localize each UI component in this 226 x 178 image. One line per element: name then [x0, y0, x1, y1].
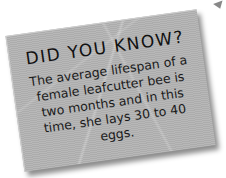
corner-arrow-icon [213, 1, 225, 11]
did-you-know-card: DID YOU KNOW? The average lifespan of a … [5, 9, 215, 172]
card-body-text: The average lifespan of a female leafcut… [23, 51, 202, 154]
